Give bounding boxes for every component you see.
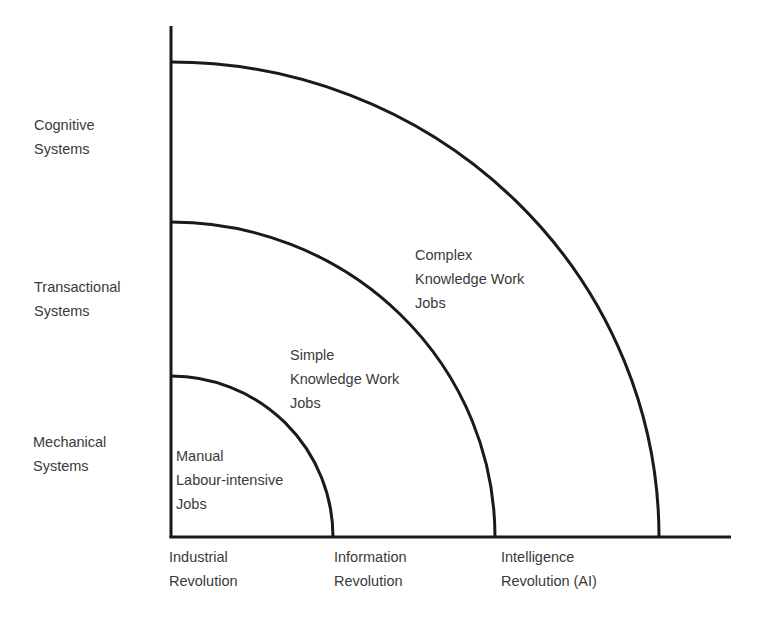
y-label-transactional: Transactional Systems bbox=[34, 275, 121, 323]
x-label-line: Industrial bbox=[169, 545, 238, 569]
region-label-line: Manual bbox=[176, 444, 283, 468]
y-label-line: Systems bbox=[33, 454, 106, 478]
y-label-line: Systems bbox=[34, 299, 121, 323]
region-label-line: Simple bbox=[290, 343, 399, 367]
region-label-simple: Simple Knowledge Work Jobs bbox=[290, 343, 399, 415]
x-label-line: Revolution bbox=[169, 569, 238, 593]
y-label-cognitive: Cognitive Systems bbox=[34, 113, 94, 161]
x-label-line: Revolution (AI) bbox=[501, 569, 597, 593]
x-label-intelligence: Intelligence Revolution (AI) bbox=[501, 545, 597, 593]
region-label-line: Jobs bbox=[290, 391, 399, 415]
region-label-complex: Complex Knowledge Work Jobs bbox=[415, 243, 524, 315]
x-label-information: Information Revolution bbox=[334, 545, 407, 593]
x-label-line: Revolution bbox=[334, 569, 407, 593]
y-label-line: Mechanical bbox=[33, 430, 106, 454]
x-label-line: Information bbox=[334, 545, 407, 569]
y-label-line: Cognitive bbox=[34, 113, 94, 137]
region-label-line: Jobs bbox=[415, 291, 524, 315]
region-label-line: Labour-intensive bbox=[176, 468, 283, 492]
region-label-manual: Manual Labour-intensive Jobs bbox=[176, 444, 283, 516]
y-label-line: Transactional bbox=[34, 275, 121, 299]
y-label-line: Systems bbox=[34, 137, 94, 161]
x-label-industrial: Industrial Revolution bbox=[169, 545, 238, 593]
region-label-line: Knowledge Work bbox=[290, 367, 399, 391]
region-label-line: Complex bbox=[415, 243, 524, 267]
y-label-mechanical: Mechanical Systems bbox=[33, 430, 106, 478]
region-label-line: Jobs bbox=[176, 492, 283, 516]
x-label-line: Intelligence bbox=[501, 545, 597, 569]
region-label-line: Knowledge Work bbox=[415, 267, 524, 291]
